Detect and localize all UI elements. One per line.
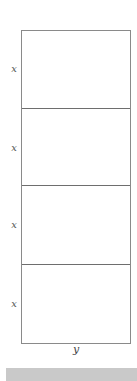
row-label-2: x	[9, 142, 19, 153]
row-divider-1	[22, 108, 130, 109]
row-label-1: x	[9, 63, 19, 74]
footer-bar	[6, 368, 137, 381]
column-label: y	[70, 343, 82, 356]
row-divider-2	[22, 185, 130, 186]
row-divider-3	[22, 264, 130, 265]
diagram-box	[21, 30, 131, 344]
row-label-3: x	[9, 219, 19, 230]
row-label-4: x	[9, 298, 19, 309]
